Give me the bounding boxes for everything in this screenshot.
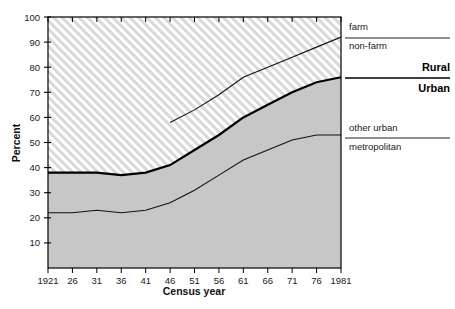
legend-label-rural: Rural <box>422 61 450 73</box>
legend-label-urban: Urban <box>418 82 450 94</box>
y-tick-label: 90 <box>29 37 40 48</box>
y-tick-label: 10 <box>29 237 40 248</box>
y-tick-label: 50 <box>29 137 40 148</box>
x-tick-label: 61 <box>238 275 249 286</box>
y-tick-label: 100 <box>24 12 40 23</box>
x-tick-label: 41 <box>140 275 151 286</box>
x-tick-label: 26 <box>67 275 78 286</box>
x-axis-title: Census year <box>163 285 225 297</box>
legend-label-other-urban: other urban <box>349 122 398 133</box>
x-tick-label: 36 <box>116 275 127 286</box>
x-tick-label: 1981 <box>330 275 351 286</box>
x-tick-label: 76 <box>311 275 322 286</box>
y-tick-label: 70 <box>29 87 40 98</box>
chart-canvas: 102030405060708090100 192126313641465156… <box>0 0 455 309</box>
legend-label-farm: farm <box>349 21 368 32</box>
y-axis-tick-labels: 102030405060708090100 <box>24 12 40 249</box>
legend-label-non-farm: non-farm <box>349 40 387 51</box>
y-axis-title: Percent <box>10 123 22 162</box>
legend: farm non-farm Rural Urban other urban me… <box>345 21 450 152</box>
y-tick-label: 40 <box>29 162 40 173</box>
x-tick-label: 31 <box>92 275 103 286</box>
y-tick-label: 80 <box>29 62 40 73</box>
census-urbanization-chart: 102030405060708090100 192126313641465156… <box>0 0 455 309</box>
x-tick-label: 66 <box>262 275 273 286</box>
y-tick-label: 60 <box>29 112 40 123</box>
y-tick-label: 20 <box>29 212 40 223</box>
y-tick-label: 30 <box>29 187 40 198</box>
x-tick-label: 1921 <box>37 275 58 286</box>
x-tick-label: 71 <box>287 275 298 286</box>
legend-label-metropolitan: metropolitan <box>349 141 401 152</box>
